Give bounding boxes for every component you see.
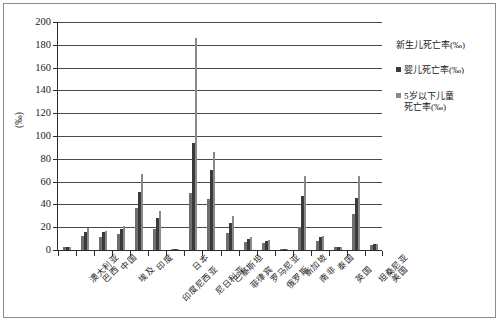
bar-group: [316, 22, 325, 250]
bar-group: [298, 22, 307, 250]
bar: [69, 247, 71, 250]
legend-item: 婴儿死亡率(‰): [396, 65, 496, 76]
bar: [232, 216, 234, 250]
bar-group: [81, 22, 90, 250]
x-axis-label: 英国: [354, 265, 373, 284]
bar-group: [280, 22, 289, 250]
bar: [376, 244, 378, 250]
y-tick-label: 40: [41, 199, 52, 210]
bar: [213, 152, 215, 250]
legend-label: 新生儿死亡率(‰): [396, 40, 465, 50]
bar: [177, 249, 179, 250]
y-axis-title: (‰): [14, 112, 24, 128]
bar-group: [352, 22, 361, 250]
y-tick-label: 80: [41, 154, 52, 165]
legend-label-line2: 死亡率(‰): [404, 102, 496, 113]
x-axis-label: 泰国: [336, 253, 355, 272]
y-tick-label: 20: [41, 222, 52, 233]
bar-group: [226, 22, 235, 250]
bars-layer: [58, 22, 382, 250]
bar-chart: (‰) 020406080100120140160180200 澳大利亚巴西中国…: [0, 0, 500, 322]
bar-group: [171, 22, 180, 250]
bar-group: [135, 22, 144, 250]
legend-item: 新生儿死亡率(‰): [396, 40, 496, 51]
x-axis-labels: 澳大利亚巴西中国埃及印度印度尼西亚日本尼日利亚巴基斯坦菲律宾罗马尼亚俄罗斯新加坡…: [57, 253, 387, 319]
plot-area: 020406080100120140160180200: [57, 22, 382, 251]
bar-group: [117, 22, 126, 250]
y-tick-label: 60: [41, 176, 52, 187]
legend-label: 婴儿死亡率(‰): [404, 65, 464, 75]
chart-legend: 新生儿死亡率(‰)婴儿死亡率(‰)5岁以下儿童死亡率(‰): [396, 40, 496, 127]
bar: [304, 176, 306, 250]
x-axis-label: 印度尼西亚: [181, 265, 219, 303]
y-tick-label: 140: [35, 85, 51, 96]
bar-group: [262, 22, 271, 250]
bar-group: [99, 22, 108, 250]
legend-item: 5岁以下儿童死亡率(‰): [396, 91, 496, 114]
x-axis-label: 中国: [119, 253, 138, 272]
y-tick-label: 160: [35, 62, 51, 73]
bar-group: [63, 22, 72, 250]
x-axis-label: 埃及: [137, 265, 156, 284]
legend-swatch-icon: [396, 67, 401, 72]
bar: [123, 226, 125, 250]
bar-group: [189, 22, 198, 250]
y-tick-label: 120: [35, 108, 51, 119]
bar: [87, 228, 89, 250]
y-tick-label: 180: [35, 40, 51, 51]
y-tick-label: 200: [35, 17, 51, 28]
bar: [250, 237, 252, 250]
bar: [141, 174, 143, 250]
bar-group: [153, 22, 162, 250]
bar: [340, 247, 342, 250]
bar: [159, 211, 161, 250]
legend-label: 5岁以下儿童: [404, 91, 454, 101]
y-tick-label: 0: [46, 245, 51, 256]
bar-group: [207, 22, 216, 250]
y-tick-label: 100: [35, 131, 51, 142]
bar-group: [244, 22, 253, 250]
bar: [268, 240, 270, 250]
bar: [286, 249, 288, 250]
bar-group: [334, 22, 343, 250]
bar-group: [370, 22, 379, 250]
bar: [195, 38, 197, 250]
bar: [105, 231, 107, 250]
x-axis-label: 南非: [318, 265, 337, 284]
bar: [322, 236, 324, 250]
x-axis-label: 印度: [156, 253, 175, 272]
legend-swatch-icon: [396, 93, 401, 98]
bar: [358, 176, 360, 250]
